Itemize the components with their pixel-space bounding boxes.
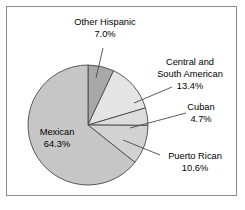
pie-label-mexican-percent: 64.3% [44, 139, 70, 149]
pie-label-cuban-name: Cuban [187, 102, 214, 112]
pie-chart-canvas: Other Hispanic 7.0% Central and South Am… [0, 0, 245, 210]
pie-label-puerto-rican-percent: 10.6% [182, 163, 208, 173]
pie-label-puerto-rican-name: Puerto Rican [168, 151, 222, 161]
pie-chart-figure: Other Hispanic 7.0% Central and South Am… [0, 0, 245, 210]
pie-label-central-and-south-american-name-line1: Central and [166, 57, 214, 67]
pie-label-central-and-south-american-name-line2: South American [157, 69, 223, 79]
pie-label-cuban-percent: 4.7% [190, 114, 211, 124]
pie-label-central-and-south-american-percent: 13.4% [177, 81, 203, 91]
pie-label-other-hispanic-name: Other Hispanic [74, 17, 136, 27]
pie-slices-group [28, 65, 148, 185]
pie-label-mexican-name: Mexican [40, 127, 75, 137]
pie-label-other-hispanic-percent: 7.0% [94, 29, 115, 39]
